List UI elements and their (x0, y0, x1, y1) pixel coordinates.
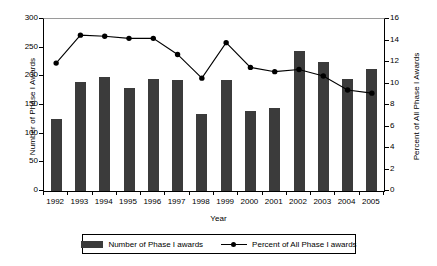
y-right-tickmark-4 (385, 147, 389, 148)
x-tickmark-7 (213, 191, 214, 195)
y-right-tickmark-14 (385, 40, 389, 41)
y-right-tick-14: 14 (390, 35, 414, 44)
x-tick-label-2005: 2005 (356, 197, 386, 206)
x-tickmark-4 (140, 191, 141, 195)
line-marker-1992 (53, 60, 58, 65)
bar-swatch-icon (81, 241, 103, 248)
x-tickmark-2 (92, 191, 93, 195)
y-right-tickmark-8 (385, 104, 389, 105)
x-tickmark-13 (359, 191, 360, 195)
line-marker-1993 (78, 32, 83, 37)
y-right-tick-8: 8 (390, 99, 414, 108)
percent-line-path (56, 35, 372, 93)
y-axis-left-ticks: 050100150200250300 (13, 18, 38, 191)
chart-container: Number of Phase I Awards Percent of All … (0, 0, 437, 266)
y-left-tick-0: 0 (14, 185, 38, 194)
x-tickmark-3 (116, 191, 117, 195)
line-marker-2005 (369, 90, 374, 95)
line-marker-1999 (223, 40, 228, 45)
y-right-tick-2: 2 (390, 164, 414, 173)
y-left-tick-50: 50 (14, 156, 38, 165)
y-left-tick-150: 150 (14, 99, 38, 108)
legend-item-bars-label: Number of Phase I awards (108, 240, 203, 249)
line-marker-2002 (296, 67, 301, 72)
x-tickmark-8 (237, 191, 238, 195)
line-marker-icon (221, 241, 247, 248)
line-marker-1998 (199, 75, 204, 80)
y-right-tick-0: 0 (390, 185, 414, 194)
y-right-tickmark-10 (385, 83, 389, 84)
x-tickmark-1 (67, 191, 68, 195)
x-axis-title: Year (0, 214, 437, 223)
x-axis-tick-labels: 1992199319941995199619971998199920002001… (43, 197, 385, 211)
y-right-tickmark-2 (385, 169, 389, 170)
line-marker-1995 (126, 36, 131, 41)
line-marker-2001 (272, 69, 277, 74)
y-left-tick-300: 300 (14, 13, 38, 22)
y-right-tick-16: 16 (390, 13, 414, 22)
line-marker-2003 (321, 73, 326, 78)
x-tickmark-10 (286, 191, 287, 195)
y-left-tick-100: 100 (14, 128, 38, 137)
x-tickmark-9 (262, 191, 263, 195)
y-right-tick-10: 10 (390, 78, 414, 87)
y-right-tickmark-16 (385, 18, 389, 19)
y-right-tickmark-12 (385, 61, 389, 62)
x-tickmark-14 (383, 191, 384, 195)
y-right-tick-12: 12 (390, 56, 414, 65)
line-marker-2000 (248, 65, 253, 70)
line-series-layer (44, 19, 384, 191)
y-axis-right-ticks: 0246810121416 (390, 18, 415, 191)
y-left-tick-200: 200 (14, 70, 38, 79)
x-axis-tickmarks (43, 191, 385, 196)
y-right-tickmark-0 (385, 190, 389, 191)
y-right-tick-4: 4 (390, 142, 414, 151)
chart-legend: Number of Phase I awards Percent of All … (82, 234, 356, 254)
x-tickmark-12 (334, 191, 335, 195)
x-tickmark-6 (189, 191, 190, 195)
x-tickmark-11 (310, 191, 311, 195)
line-marker-1996 (151, 36, 156, 41)
line-marker-2004 (345, 87, 350, 92)
x-tickmark-5 (164, 191, 165, 195)
legend-item-line: Percent of All Phase I awards (221, 240, 357, 249)
plot-area (43, 18, 385, 192)
y-right-tick-6: 6 (390, 121, 414, 130)
legend-item-bars: Number of Phase I awards (81, 240, 203, 249)
x-tickmark-0 (43, 191, 44, 195)
legend-item-line-label: Percent of All Phase I awards (252, 240, 357, 249)
y-right-tickmark-6 (385, 126, 389, 127)
y-left-tick-250: 250 (14, 42, 38, 51)
line-marker-1997 (175, 52, 180, 57)
line-marker-1994 (102, 34, 107, 39)
